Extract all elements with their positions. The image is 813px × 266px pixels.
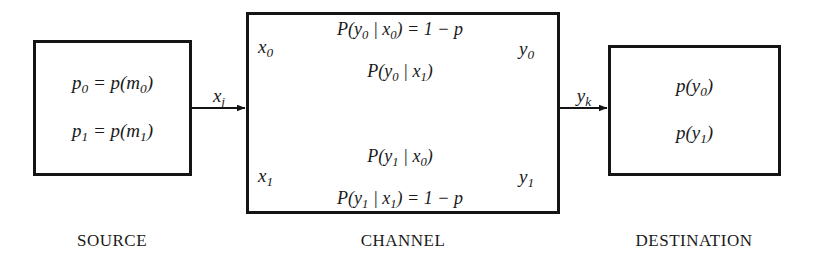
source-probability-line-1: p1 = p(m1) [36, 121, 189, 144]
prob-y0x1-close: ) [427, 61, 433, 81]
source-box-content: p0 = p(m0) p1 = p(m1) [36, 73, 189, 144]
caption-source: SOURCE [77, 231, 147, 251]
channel-output-node-y0: y0 [519, 38, 534, 63]
caption-channel: CHANNEL [361, 231, 446, 251]
link-xj-subscript: j [221, 94, 225, 109]
dest-py1-subscript: 1 [700, 131, 707, 146]
prob-y0x0-mid: | x [368, 19, 390, 39]
dest-py1-head: p(y [676, 122, 700, 143]
source-p0-rhs-tail: ) [147, 72, 153, 93]
prob-y0x0-value: = 1 − p [403, 19, 463, 39]
source-box: p0 = p(m0) p1 = p(m1) [33, 40, 192, 176]
source-p1-rhs-subscript: 1 [140, 128, 147, 143]
source-probability-line-0: p0 = p(m0) [36, 73, 189, 96]
dest-py1-tail: ) [707, 122, 713, 143]
node-x1-subscript: 1 [266, 174, 273, 189]
prob-y1x1-mid: | x [368, 188, 390, 208]
channel-diagram: p0 = p(m0) p1 = p(m1) x0 x1 y0 y1 P(y0 |… [0, 0, 813, 266]
source-p0-rhs: p(m [110, 72, 140, 93]
channel-output-node-y1: y1 [519, 166, 534, 191]
prob-y0x1-head: P(y [367, 61, 392, 81]
link-yk-subscript: k [585, 94, 591, 109]
prob-y0x1-mid: | x [399, 61, 421, 81]
prob-y1x1-value: = 1 − p [403, 188, 463, 208]
dest-py0-subscript: 0 [700, 83, 707, 98]
link-label-xj: xj [213, 85, 225, 110]
source-p1-rhs-tail: ) [147, 120, 153, 141]
caption-destination: DESTINATION [636, 231, 753, 251]
source-p1-rhs: p(m [110, 120, 140, 141]
prob-y1x0-close: ) [427, 146, 433, 166]
transition-label-y0-given-x0: P(y0 | x0) = 1 − p [337, 19, 463, 43]
node-y1-subscript: 1 [527, 175, 534, 190]
transition-label-y1-given-x0: P(y1 | x0) [367, 146, 433, 170]
node-x0-subscript: 0 [266, 45, 273, 60]
node-y0-subscript: 0 [527, 47, 534, 62]
transition-label-y1-given-x1: P(y1 | x1) = 1 − p [337, 188, 463, 212]
prob-y1x0-mid: | x [399, 146, 421, 166]
prob-y1x1-head: P(y [337, 188, 362, 208]
destination-probability-line-1: p(y1) [611, 123, 778, 146]
destination-box: p(y0) p(y1) [608, 45, 781, 176]
prob-y1x0-head: P(y [367, 146, 392, 166]
transition-label-y0-given-x1: P(y0 | x1) [367, 61, 433, 85]
destination-box-content: p(y0) p(y1) [611, 75, 778, 146]
source-p0-rhs-subscript: 0 [140, 81, 147, 96]
dest-py0-tail: ) [707, 74, 713, 95]
destination-probability-line-0: p(y0) [611, 75, 778, 98]
channel-input-node-x1: x1 [258, 165, 273, 190]
prob-y0x0-head: P(y [337, 19, 362, 39]
source-p0-relation: = [88, 72, 110, 93]
channel-input-node-x0: x0 [258, 36, 273, 61]
link-label-yk: yk [577, 85, 591, 110]
source-p1-relation: = [88, 120, 110, 141]
dest-py0-head: p(y [676, 74, 700, 95]
